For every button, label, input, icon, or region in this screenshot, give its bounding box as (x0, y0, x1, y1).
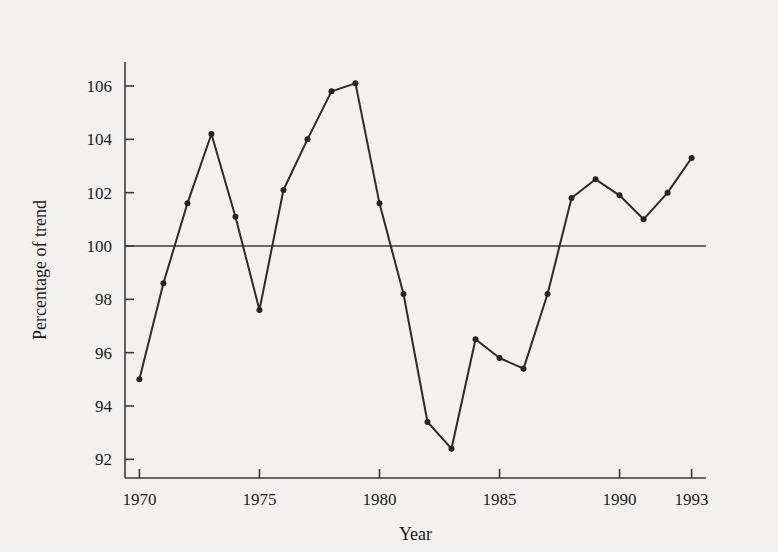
data-point-group (136, 80, 694, 451)
data-point-1970 (136, 376, 142, 382)
y-tick-label-92: 92 (95, 450, 112, 469)
y-tick-label-102: 102 (87, 184, 113, 203)
line-chart: 92949698100102104106 1970197519801985199… (0, 0, 778, 552)
x-tick-label-1975: 1975 (242, 490, 276, 509)
data-point-1983 (449, 446, 455, 452)
data-point-1984 (473, 336, 479, 342)
y-tick-label-98: 98 (95, 290, 112, 309)
y-axis-tick-labels: 92949698100102104106 (87, 77, 113, 469)
y-tick-label-94: 94 (95, 397, 113, 416)
x-tick-label-1990: 1990 (603, 490, 637, 509)
data-point-1980 (376, 200, 382, 206)
chart-figure: 92949698100102104106 1970197519801985199… (0, 0, 778, 552)
data-point-1991 (641, 216, 647, 222)
data-point-1974 (232, 214, 238, 220)
data-point-1988 (569, 195, 575, 201)
data-point-1975 (256, 307, 262, 313)
y-axis-tick-group (125, 86, 134, 459)
data-point-1978 (328, 88, 334, 94)
data-point-1990 (617, 192, 623, 198)
y-tick-label-100: 100 (87, 237, 113, 256)
data-point-1992 (665, 190, 671, 196)
data-point-1971 (160, 280, 166, 286)
data-point-1993 (689, 155, 695, 161)
data-point-1985 (497, 355, 503, 361)
x-axis-title: Year (399, 524, 432, 544)
data-point-1987 (545, 291, 551, 297)
x-tick-label-1980: 1980 (362, 490, 396, 509)
data-point-1973 (208, 131, 214, 137)
data-point-1972 (184, 200, 190, 206)
x-tick-label-1970: 1970 (122, 490, 156, 509)
y-tick-label-106: 106 (87, 77, 113, 96)
data-point-1989 (593, 176, 599, 182)
y-tick-label-96: 96 (95, 344, 112, 363)
data-point-1982 (425, 419, 431, 425)
x-tick-label-1985: 1985 (483, 490, 517, 509)
data-point-1986 (521, 366, 527, 372)
y-axis-title: Percentage of trend (30, 200, 50, 340)
data-point-1976 (280, 187, 286, 193)
y-tick-label-104: 104 (87, 130, 113, 149)
data-point-1981 (401, 291, 407, 297)
x-axis-tick-labels: 197019751980198519901993 (122, 490, 708, 509)
x-axis-tick-group (139, 469, 691, 478)
data-point-1979 (352, 80, 358, 86)
data-series-line (139, 83, 691, 448)
data-point-1977 (304, 136, 310, 142)
x-tick-label-1993: 1993 (675, 490, 709, 509)
